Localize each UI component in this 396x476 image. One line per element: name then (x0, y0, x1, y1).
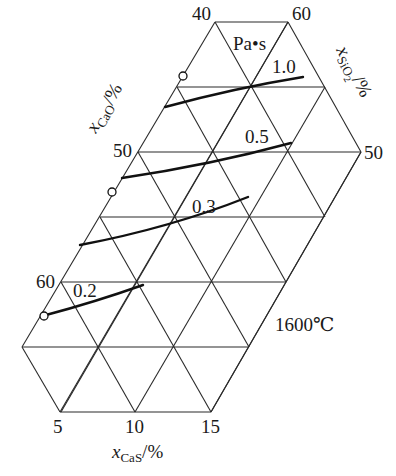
tick-label-sio2-50: 50 (364, 142, 383, 163)
svg-text:xSiO2/%: xSiO2/% (328, 41, 377, 103)
svg-text:xCaO/%: xCaO/% (81, 79, 129, 138)
tick-label-cao-60: 60 (36, 271, 55, 292)
isoline-1.0 (165, 77, 303, 107)
tick-label-cao-50: 50 (113, 140, 132, 161)
axis-title-cas: xCaS/% (111, 441, 163, 465)
tick-label-60-top: 60 (292, 3, 311, 24)
isoline-label-1.0: 1.0 (272, 56, 296, 77)
axis-title-sio2: xSiO2/% (328, 41, 377, 103)
isoline-label-0.5: 0.5 (245, 126, 269, 147)
ternary-diagram: 40 60 Pa•s 1.0 0.5 0.3 0.2 50 60 50 5 10… (0, 0, 396, 476)
boundary-point-marker (179, 72, 187, 80)
tick-label-cas-15: 15 (201, 416, 220, 437)
axis-title-cao: xCaO/% (81, 79, 129, 138)
tick-label-cas-10: 10 (125, 416, 144, 437)
tick-label-cas-5: 5 (53, 416, 63, 437)
isoline-label-0.2: 0.2 (73, 280, 97, 301)
tick-label-40: 40 (192, 3, 211, 24)
isoline-label-0.3: 0.3 (192, 196, 216, 217)
temperature-label: 1600℃ (275, 314, 334, 335)
boundary-point-marker (40, 312, 48, 320)
unit-label: Pa•s (233, 33, 266, 54)
boundary-point-marker (108, 188, 116, 196)
isoline-0.3 (80, 197, 248, 245)
